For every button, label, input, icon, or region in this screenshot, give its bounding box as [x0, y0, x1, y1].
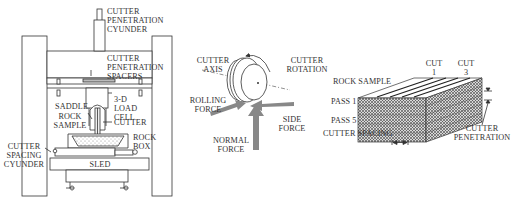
label-cut-3: CUT 3 — [454, 59, 478, 77]
label-cutter-rotation: CUTTER ROTATION — [282, 56, 332, 74]
label-line: AXIS — [193, 65, 233, 74]
label-pass-1: PASS 1 — [331, 97, 357, 106]
label-rock-sample-block: ROCK SAMPLE — [333, 77, 391, 86]
label-pass-5: PASS 5 — [331, 116, 357, 125]
label-line: SIDE — [275, 115, 309, 124]
label-rolling-force: ROLLING FORCE — [188, 96, 228, 114]
label-side-force: SIDE FORCE — [275, 115, 309, 133]
label-line: CUT — [422, 59, 446, 68]
label-line: SAMPLE — [50, 121, 90, 130]
label-line: CUTTER — [107, 7, 164, 16]
label-line: CUTTER — [452, 124, 512, 133]
label-line: ROTATION — [282, 65, 332, 74]
label-line: 1 — [422, 68, 446, 77]
label-line: PENETRATION — [107, 63, 164, 72]
label-line: NORMAL — [211, 136, 251, 145]
label-rock-box: ROCK BOX — [133, 133, 156, 151]
label-cutter-spacing: CUTTER SPACING — [323, 129, 393, 138]
left-column — [22, 36, 47, 196]
label-line: CUT — [454, 59, 478, 68]
label-line: FORCE — [188, 105, 228, 114]
label-line: PENETRATION — [452, 133, 512, 142]
label-normal-force: NORMAL FORCE — [211, 136, 251, 154]
penetration-cylinder — [94, 20, 105, 51]
label-line: ROLLING — [188, 96, 228, 105]
label-sled: SLED — [80, 160, 120, 169]
label-saddle: SADDLE — [44, 102, 88, 111]
label-line: CUTTER — [282, 56, 332, 65]
label-line: SPACING — [2, 151, 46, 160]
label-line: CYUNDER — [2, 160, 46, 169]
label-line: 3 — [454, 68, 478, 77]
label-cutter-axis: CUTTER AXIS — [193, 56, 233, 74]
label-line: LOAD — [114, 104, 137, 113]
label-line: ROCK — [133, 133, 156, 142]
label-line: FORCE — [275, 124, 309, 133]
label-line: CYUNDER — [107, 25, 164, 34]
label-cutter-penetration: CUTTER PENETRATION — [452, 124, 512, 142]
label-cutter-spacing-cylinder: CUTTER SPACING CYUNDER — [2, 142, 46, 169]
label-cut-1: CUT 1 — [422, 59, 446, 77]
label-line: CUTTER — [2, 142, 46, 151]
label-rock-sample: ROCK SAMPLE — [50, 112, 90, 130]
label-line: ROCK — [50, 112, 90, 121]
label-cutter-penetration-spacers: CUTTER PENETRATION SPACERS — [107, 54, 164, 81]
label-cutter-penetration-cylinder: CUTTER PENETRATION CYUNDER — [107, 7, 164, 34]
label-cutter: CUTTER — [114, 118, 146, 127]
label-line: CUTTER — [107, 54, 164, 63]
label-line: FORCE — [211, 145, 251, 154]
penetration-cylinder-rod — [97, 9, 102, 21]
spacing-cylinder — [55, 148, 115, 156]
label-line: BOX — [133, 142, 156, 151]
rock-sample — [72, 136, 124, 146]
label-line: SPACERS — [107, 72, 164, 81]
cutter-penetration-dimension — [482, 88, 492, 125]
label-line: PENETRATION — [107, 16, 164, 25]
label-line: 3-D — [114, 95, 137, 104]
label-line: CUTTER — [193, 56, 233, 65]
cutter-face — [241, 64, 267, 100]
